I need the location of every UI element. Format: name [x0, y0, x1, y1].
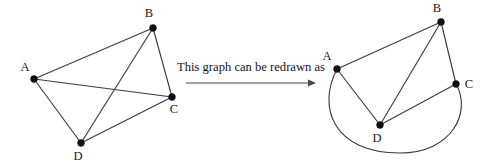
redrawn-graph-labels: A B C D	[322, 1, 473, 145]
right-arrow-icon	[308, 80, 316, 87]
edge-a-d	[34, 79, 81, 143]
redrawn-graph-vertices	[334, 19, 460, 129]
edge-a-b	[337, 22, 441, 69]
original-graph-edges	[34, 28, 172, 143]
transition-annotation: This graph can be redrawn as	[177, 60, 325, 87]
vertex-b	[150, 25, 157, 32]
vertex-label-d: D	[73, 149, 82, 163]
vertex-c	[453, 81, 460, 88]
edge-b-d	[81, 28, 153, 143]
vertex-label-a: A	[20, 60, 29, 74]
figure-canvas: A B C D This graph can be redrawn as	[0, 0, 494, 167]
edge-a-b	[34, 28, 153, 79]
edge-b-c	[153, 28, 172, 97]
edge-b-d	[380, 22, 441, 125]
graph-redrawing-figure: A B C D This graph can be redrawn as	[0, 0, 494, 167]
edge-a-c-arc	[329, 69, 461, 153]
edge-c-d	[380, 84, 456, 125]
vertex-b	[438, 19, 445, 26]
vertex-c	[169, 94, 176, 101]
vertex-label-b: B	[145, 6, 153, 20]
edge-a-c	[34, 79, 172, 97]
edge-c-d	[81, 97, 172, 143]
vertex-label-c: C	[170, 102, 178, 116]
original-graph-vertices	[31, 25, 176, 147]
caption-label: This graph can be redrawn as	[177, 60, 325, 74]
vertex-a	[31, 76, 38, 83]
vertex-label-d: D	[372, 131, 381, 145]
vertex-a	[334, 66, 341, 73]
vertex-label-a: A	[322, 49, 331, 63]
vertex-label-b: B	[433, 1, 441, 15]
vertex-d	[377, 122, 384, 129]
vertex-d	[78, 140, 85, 147]
edge-b-c	[441, 22, 456, 84]
edge-a-d	[337, 69, 380, 125]
original-graph: A B C D	[20, 6, 178, 163]
vertex-label-c: C	[465, 77, 473, 91]
redrawn-graph-edges	[329, 22, 461, 153]
redrawn-graph: A B C D	[322, 1, 473, 153]
